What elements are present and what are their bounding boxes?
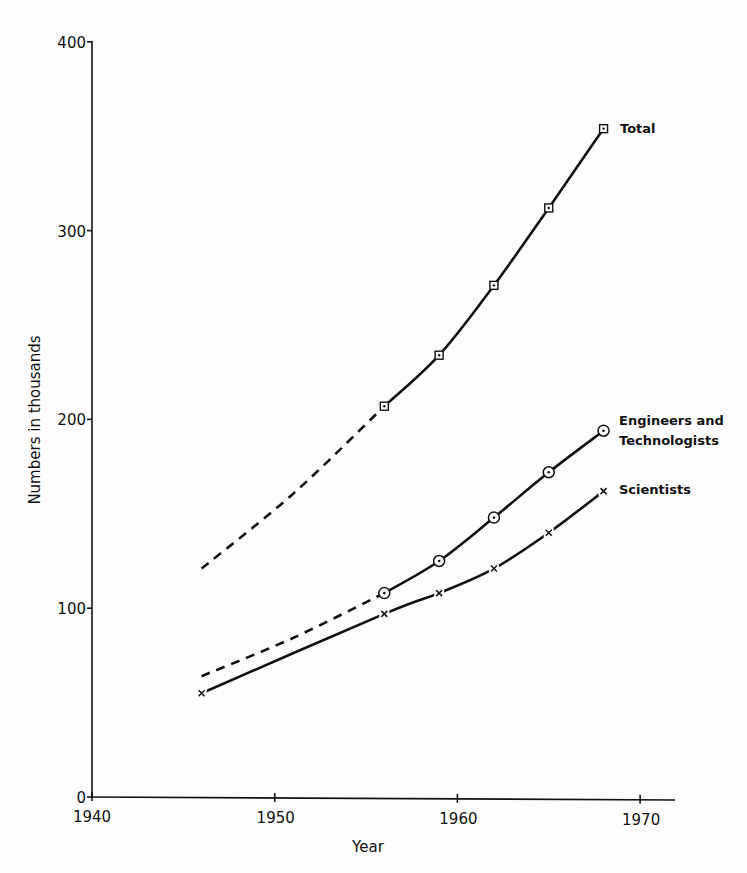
y-tick-label: 200 xyxy=(57,411,86,429)
marker-dot xyxy=(383,592,386,595)
marker-dot xyxy=(547,471,550,474)
y-axis-title: Numbers in thousands xyxy=(26,335,44,504)
data-line xyxy=(384,129,603,407)
x-tick-label: 1970 xyxy=(622,811,660,829)
marker-dot xyxy=(602,429,605,432)
marker-dot xyxy=(548,207,550,209)
marker-dot xyxy=(383,405,385,407)
series-label-scientists: Scientists xyxy=(619,482,691,497)
x-axis xyxy=(92,797,675,800)
x-tick-label: 1950 xyxy=(257,809,295,827)
series-layer xyxy=(197,125,609,699)
series-engineers-and-technologists xyxy=(202,425,609,676)
marker-dot xyxy=(602,127,604,129)
x-axis-title: Year xyxy=(351,838,385,856)
marker-dot xyxy=(493,284,495,286)
data-line xyxy=(202,491,604,693)
y-tick-label: 100 xyxy=(57,600,86,618)
series-total xyxy=(202,125,608,569)
series-scientists xyxy=(197,486,609,698)
series-label-total: Total xyxy=(620,121,656,136)
y-tick-label: 0 xyxy=(76,789,86,807)
x-tick-label: 1940 xyxy=(73,808,111,826)
marker-dot xyxy=(438,560,441,563)
y-ticks: 0100200300400 xyxy=(57,34,92,807)
line-chart: 0100200300400 1940195019601970 Year Numb… xyxy=(0,0,747,873)
marker-dot xyxy=(493,516,496,519)
extrapolated-line xyxy=(202,406,385,568)
series-label-engineers-line2: Technologists xyxy=(619,433,719,448)
axes xyxy=(92,41,675,800)
series-label-engineers-line1: Engineers and xyxy=(619,413,724,428)
x-tick-label: 1960 xyxy=(439,810,477,828)
extrapolated-line xyxy=(202,593,385,676)
y-tick-label: 300 xyxy=(57,223,86,241)
series-labels: Total Engineers and Technologists Scient… xyxy=(619,121,724,497)
marker-dot xyxy=(438,354,440,356)
y-tick-label: 400 xyxy=(57,34,86,52)
